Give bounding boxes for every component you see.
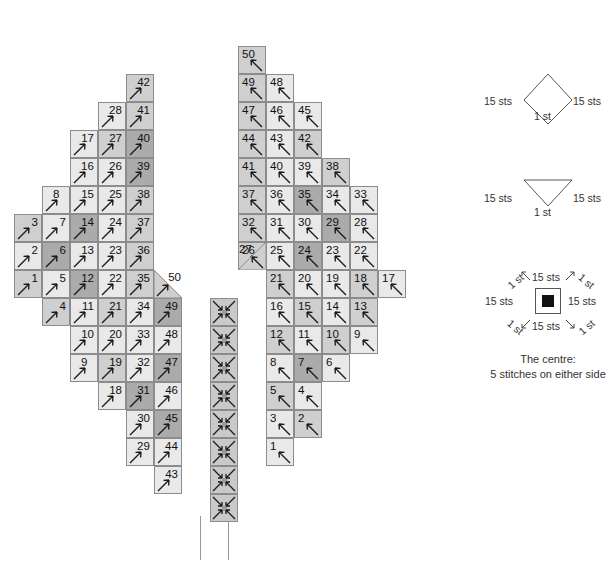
arrow-up-left-icon [332, 253, 348, 269]
chart-cell: 38 [322, 158, 350, 186]
chart-cell-centre [210, 382, 238, 410]
arrow-up-right-icon [100, 365, 116, 381]
arrow-up-left-icon [223, 339, 236, 352]
arrow-up-right-icon [100, 393, 116, 409]
chart-cell: 40 [266, 158, 294, 186]
arrow-up-right-icon [100, 141, 116, 157]
cell-number: 1 [32, 273, 38, 284]
chart-cell: 17 [378, 270, 406, 298]
chart-cell: 13 [70, 242, 98, 270]
arrow-up-left-icon [360, 225, 376, 241]
arrow-up-left-icon [360, 253, 376, 269]
arrow-up-right-icon [128, 421, 144, 437]
arrow-up-right-icon [44, 309, 60, 325]
legend-square-left-label: 15 sts [485, 295, 513, 307]
arrow-up-right-icon [16, 281, 32, 297]
chart-cell: 19 [98, 354, 126, 382]
chart-cell: 46 [266, 102, 294, 130]
arrow-up-right-icon [72, 197, 88, 213]
arrow-up-left-icon [304, 365, 320, 381]
arrow-up-left-icon [248, 169, 264, 185]
chart-cell: 8 [266, 354, 294, 382]
arrow-up-right-icon [44, 281, 60, 297]
arrow-up-right-icon [156, 337, 172, 353]
arrow-up-right-icon [128, 393, 144, 409]
arrow-up-right-icon [72, 169, 88, 185]
arrow-up-left-icon [332, 169, 348, 185]
chart-cell-centre [210, 410, 238, 438]
chart-cell: 28 [98, 102, 126, 130]
chart-cell: 47 [154, 354, 182, 382]
arrow-up-left-icon [249, 254, 265, 270]
arrow-up-right-icon [128, 309, 144, 325]
arrow-up-right-icon [44, 197, 60, 213]
chart-cell: 17 [70, 130, 98, 158]
arrow-up-left-icon [276, 169, 292, 185]
arrow-up-right-icon [128, 141, 144, 157]
arrow-up-right-icon [100, 309, 116, 325]
chart-cell: 46 [154, 382, 182, 410]
chart-cell: 6 [322, 354, 350, 382]
arrow-up-right-icon [128, 113, 144, 129]
chart-cell: 10 [70, 326, 98, 354]
centre-square-icon [535, 288, 561, 314]
legend-diamond-left-label: 15 sts [484, 95, 512, 107]
arrow-up-left-icon [304, 281, 320, 297]
arrow-up-right-icon [155, 282, 171, 298]
legend-triangle-left-label: 15 sts [484, 192, 512, 204]
chart-cell: 31 [126, 382, 154, 410]
arrow-up-left-icon [332, 337, 348, 353]
chart-cell: 5 [42, 270, 70, 298]
chart-cell: 9 [70, 354, 98, 382]
chart-cell-centre [210, 298, 238, 326]
chart-cell: 2 [294, 410, 322, 438]
arrow-up-right-icon [128, 197, 144, 213]
chart-cell: 2 [14, 242, 42, 270]
legend-diamond-right-label: 15 sts [573, 95, 601, 107]
arrow-up-left-icon [332, 225, 348, 241]
arrow-up-right-icon [16, 253, 32, 269]
arrow-up-right-icon [72, 225, 88, 241]
arrow-up-right-icon [156, 309, 172, 325]
arrow-up-left-icon [223, 479, 236, 492]
chart-cell: 23 [322, 242, 350, 270]
arrow-up-left-icon [304, 225, 320, 241]
arrow-up-right-icon [16, 225, 32, 241]
arrow-up-left-icon [248, 141, 264, 157]
chart-cell: 6 [42, 242, 70, 270]
chart-cell: 20 [294, 270, 322, 298]
arrow-up-left-icon [223, 423, 236, 436]
arrow-up-left-icon [248, 57, 264, 73]
chart-cell: 1 [14, 270, 42, 298]
chart-cell: 24 [294, 242, 322, 270]
arrow-up-right-icon [128, 169, 144, 185]
chart-cell: 11 [294, 326, 322, 354]
chart-cell: 43 [266, 130, 294, 158]
chart-cell: 37 [126, 214, 154, 242]
arrow-up-right-icon [100, 169, 116, 185]
arrow-up-left-icon [332, 309, 348, 325]
arrow-up-left-icon [388, 281, 404, 297]
legend-triangle-bottom-label: 1 st [534, 206, 551, 218]
chart-cell: 8 [42, 186, 70, 214]
chart-cell-centre [210, 438, 238, 466]
legend-triangle-right-label: 15 sts [573, 192, 601, 204]
chart-cell: 22 [98, 270, 126, 298]
arrow-up-left-icon [276, 85, 292, 101]
arrow-up-left-icon [223, 311, 236, 324]
chart-cell: 16 [70, 158, 98, 186]
arrow-up-left-icon [276, 365, 292, 381]
arrow-up-right-icon [72, 365, 88, 381]
chart-cell: 4 [42, 298, 70, 326]
chart-cell: 3 [14, 214, 42, 242]
arrow-up-left-icon [304, 393, 320, 409]
legend-square-bottom-right-label: 1 st [576, 317, 597, 337]
arrow-up-right-icon [128, 85, 144, 101]
chart-cell: 25 [266, 242, 294, 270]
chart-cell: 1 [266, 438, 294, 466]
chart-cell: 48 [154, 326, 182, 354]
chart-cell-centre [210, 326, 238, 354]
chart-cell: 18 [98, 382, 126, 410]
chart-cell: 24 [98, 214, 126, 242]
arrow-up-left-icon [332, 365, 348, 381]
